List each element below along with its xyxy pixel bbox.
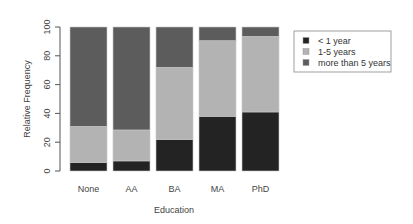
legend-label: 1-5 years <box>318 47 356 57</box>
bar-segment <box>70 126 107 162</box>
bar-segment <box>242 112 279 171</box>
bar-segment <box>199 116 236 171</box>
legend-swatch <box>303 38 309 44</box>
bar-segment <box>113 161 150 171</box>
bar-segment <box>242 36 279 112</box>
bars <box>70 27 279 171</box>
x-tick-label: BA <box>168 184 180 194</box>
legend-swatch <box>303 60 309 66</box>
x-axis-labels: NoneAABAMAPhD <box>78 184 270 194</box>
y-tick-label: 20 <box>42 137 52 147</box>
bar-segment <box>156 67 193 139</box>
legend-label: more than 5 years <box>318 58 391 68</box>
y-tick-label: 100 <box>42 19 52 34</box>
y-axis: 020406080100 <box>42 19 60 173</box>
y-tick-label: 0 <box>42 168 52 173</box>
x-axis-title: Education <box>154 205 194 215</box>
bar-segment <box>70 162 107 171</box>
legend-swatch <box>303 49 309 55</box>
x-tick-label: MA <box>211 184 225 194</box>
bar-ma <box>199 27 236 171</box>
y-tick-label: 40 <box>42 108 52 118</box>
stacked-bar-chart: 020406080100 NoneAABAMAPhD Education Rel… <box>0 0 413 224</box>
x-tick-label: PhD <box>252 184 270 194</box>
bar-segment <box>156 139 193 171</box>
bar-segment <box>113 130 150 161</box>
bar-segment <box>199 41 236 117</box>
legend-label: < 1 year <box>318 36 351 46</box>
bar-segment <box>156 27 193 67</box>
bar-ba <box>156 27 193 171</box>
legend: < 1 year1-5 yearsmore than 5 years <box>294 31 391 72</box>
y-axis-title: Relative Frequency <box>22 60 32 138</box>
bar-segment <box>113 27 150 130</box>
x-tick-label: AA <box>125 184 137 194</box>
bar-phd <box>242 27 279 171</box>
bar-segment <box>242 27 279 36</box>
y-tick-label: 80 <box>42 51 52 61</box>
y-tick-label: 60 <box>42 80 52 90</box>
bar-aa <box>113 27 150 171</box>
x-tick-label: None <box>78 184 100 194</box>
bar-none <box>70 27 107 171</box>
bar-segment <box>199 27 236 41</box>
bar-segment <box>70 27 107 126</box>
